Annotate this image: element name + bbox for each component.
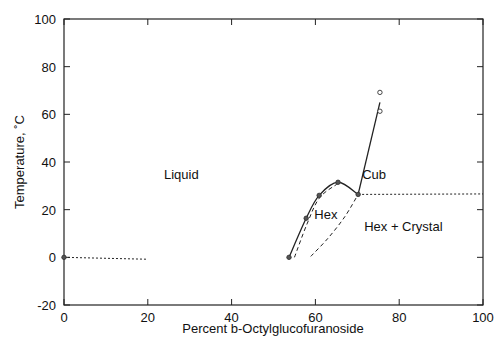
data-point (336, 180, 340, 184)
x-tick-label: 20 (141, 310, 155, 325)
phase-boundary-line (311, 194, 358, 256)
data-point (356, 192, 360, 196)
data-point (287, 255, 291, 259)
x-axis-title: Percent b-Octylglucofuranoside (182, 321, 363, 336)
y-tick-label: 60 (42, 107, 56, 122)
y-tick-label: 0 (49, 250, 56, 265)
axis-ticks: 020406080100-20020406080100 (34, 12, 494, 325)
y-axis-title: Temperature, ˚C (12, 115, 27, 209)
plot-area-border (64, 19, 483, 305)
region-label-hex: Hex (314, 207, 338, 222)
region-label-hex-crystal: Hex + Crystal (364, 219, 442, 234)
x-tick-label: 0 (60, 310, 67, 325)
y-tick-label: 80 (42, 60, 56, 75)
data-point (317, 193, 321, 197)
y-tick-label: 20 (42, 203, 56, 218)
data-point (304, 216, 308, 220)
data-point (62, 255, 66, 259)
data-point (378, 109, 382, 113)
x-tick-label: 80 (392, 310, 406, 325)
region-label-liquid: Liquid (164, 167, 199, 182)
phase-diagram-chart: 020406080100-20020406080100 LiquidCubHex… (0, 0, 496, 360)
phase-boundary-line (64, 257, 148, 259)
region-label-cub: Cub (362, 167, 386, 182)
plot-frame (64, 19, 483, 305)
y-tick-label: -20 (37, 298, 56, 313)
y-tick-label: 40 (42, 155, 56, 170)
x-tick-label: 100 (472, 310, 494, 325)
y-tick-label: 100 (34, 12, 56, 27)
data-point (378, 90, 382, 94)
